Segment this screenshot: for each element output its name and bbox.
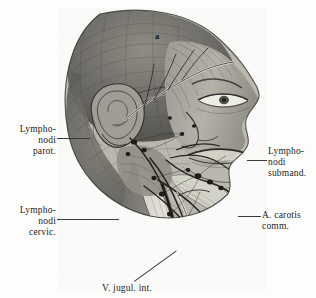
label-lymphonodi-cervicales: Lympho- nodi cervic. [0, 205, 56, 238]
head-neck-dissection-figure [58, 8, 266, 292]
leader-line-cervical [57, 219, 119, 220]
marker-a: a [155, 31, 159, 41]
label-lymphonodi-submandibulares: Lympho- nodi submand. [268, 146, 316, 179]
leader-line-carotid [238, 216, 261, 217]
anatomical-plate: a Lympho- nodi parot. Lympho- nodi cervi… [0, 0, 316, 298]
leader-line-parotid [57, 138, 90, 139]
label-vena-jugularis-interna: V. jugul. int. [88, 283, 166, 294]
label-arteria-carotis-communis: A. carotis comm. [262, 210, 316, 232]
leader-line-submandibular [247, 160, 267, 161]
label-lymphonodi-parotidei: Lympho- nodi parot. [2, 124, 56, 157]
